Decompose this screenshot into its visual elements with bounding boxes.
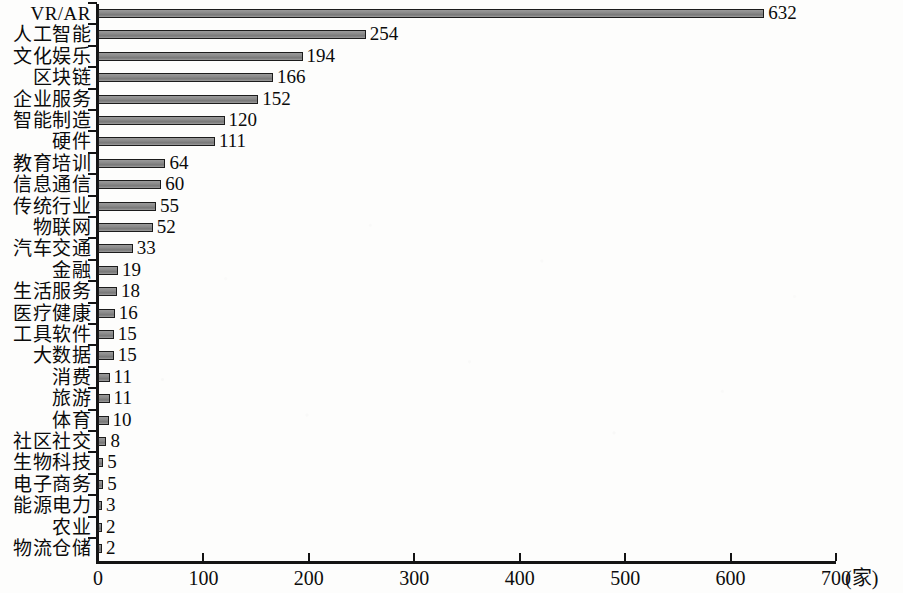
bar — [98, 351, 114, 360]
category-label: 金融 — [52, 260, 91, 281]
bar-value-label: 11 — [114, 366, 132, 387]
bar — [98, 523, 102, 532]
bar-row: 农业2 — [0, 517, 903, 538]
category-label: 体育 — [52, 410, 91, 431]
bar-row: 传统行业55 — [0, 196, 903, 217]
bar — [98, 73, 273, 82]
y-axis-tick — [88, 302, 97, 304]
bar-row: 社区社交8 — [0, 431, 903, 452]
x-axis-unit-label: (家) — [845, 566, 878, 590]
bar-value-label: 33 — [137, 237, 156, 258]
bar — [98, 95, 258, 104]
plot-area: VR/AR632人工智能254文化娱乐194区块链166企业服务152智能制造1… — [0, 0, 903, 593]
y-axis-tick — [88, 430, 97, 432]
bar-row: 物流仓储2 — [0, 538, 903, 559]
bar-value-label: 194 — [307, 45, 336, 66]
x-axis-tick-label: 0 — [93, 566, 103, 590]
bar — [98, 544, 102, 553]
bar-row: 企业服务152 — [0, 89, 903, 110]
category-label: 生物科技 — [13, 452, 91, 473]
y-axis-tick — [88, 216, 97, 218]
bar-row: 消费11 — [0, 367, 903, 388]
bar-value-label: 120 — [229, 109, 258, 130]
bar — [98, 330, 114, 339]
bar-row: 区块链166 — [0, 67, 903, 88]
bar — [98, 116, 225, 125]
y-axis-tick — [88, 537, 97, 539]
bar-row: 文化娱乐194 — [0, 46, 903, 67]
y-axis-tick — [88, 259, 97, 261]
bar-value-label: 5 — [107, 473, 117, 494]
bar-value-label: 2 — [106, 516, 116, 537]
y-axis-tick — [88, 109, 97, 111]
bar-value-label: 3 — [106, 494, 116, 515]
bar-row: 物联网52 — [0, 217, 903, 238]
bar-value-label: 55 — [160, 195, 179, 216]
bar-row: 大数据15 — [0, 345, 903, 366]
category-label: 企业服务 — [13, 89, 91, 110]
x-axis-tick — [413, 553, 415, 561]
y-axis-tick — [88, 387, 97, 389]
category-label: 传统行业 — [13, 196, 91, 217]
y-axis-tick — [88, 130, 97, 132]
bar-value-label: 632 — [768, 2, 797, 23]
bar-row: 硬件111 — [0, 131, 903, 152]
bar-value-label: 254 — [370, 23, 399, 44]
bar — [98, 437, 106, 446]
category-label: 汽车交通 — [13, 238, 91, 259]
category-label: 医疗健康 — [13, 303, 91, 324]
y-axis-tick — [88, 173, 97, 175]
bar-chart: VR/AR632人工智能254文化娱乐194区块链166企业服务152智能制造1… — [0, 0, 903, 593]
category-label: VR/AR — [30, 3, 91, 24]
bar — [98, 202, 156, 211]
category-label: 生活服务 — [13, 281, 91, 302]
y-axis-tick — [88, 66, 97, 68]
bar-row: 智能制造120 — [0, 110, 903, 131]
bar — [98, 223, 153, 232]
bar-value-label: 15 — [118, 344, 137, 365]
bar — [98, 266, 118, 275]
x-axis-tick — [835, 553, 837, 561]
category-label: 人工智能 — [13, 24, 91, 45]
category-label: 物联网 — [33, 217, 92, 238]
bar-row: 信息通信60 — [0, 174, 903, 195]
bar-row: 体育10 — [0, 410, 903, 431]
category-label: 能源电力 — [13, 495, 91, 516]
y-axis-tick — [88, 237, 97, 239]
y-axis-tick — [88, 494, 97, 496]
bar-row: 电子商务5 — [0, 474, 903, 495]
category-label: 旅游 — [52, 388, 91, 409]
bar — [98, 9, 764, 18]
bar-value-label: 5 — [107, 451, 117, 472]
category-label: 信息通信 — [13, 174, 91, 195]
category-label: 大数据 — [33, 345, 92, 366]
bar-value-label: 2 — [106, 537, 116, 558]
x-axis-tick-label: 400 — [505, 566, 535, 590]
x-axis-tick — [624, 553, 626, 561]
x-axis-tick-label: 500 — [610, 566, 640, 590]
bar — [98, 159, 165, 168]
bar-value-label: 15 — [118, 323, 137, 344]
x-axis-tick — [308, 553, 310, 561]
y-axis-tick — [88, 323, 97, 325]
bar-value-label: 16 — [119, 302, 138, 323]
bar-row: 汽车交通33 — [0, 238, 903, 259]
y-axis-tick — [88, 23, 97, 25]
category-label: 教育培训 — [13, 153, 91, 174]
bar — [98, 373, 110, 382]
x-axis-tick — [730, 553, 732, 561]
bar-row: 医疗健康16 — [0, 303, 903, 324]
bar-row: 金融19 — [0, 260, 903, 281]
bar-value-label: 64 — [169, 152, 188, 173]
x-axis-tick-label: 300 — [399, 566, 429, 590]
y-axis-tick — [88, 152, 97, 154]
category-label: 电子商务 — [13, 474, 91, 495]
category-label: 工具软件 — [13, 324, 91, 345]
bar — [98, 480, 103, 489]
bar — [98, 52, 303, 61]
bar-row: 旅游11 — [0, 388, 903, 409]
bar-value-label: 152 — [262, 88, 291, 109]
bar — [98, 287, 117, 296]
bar — [98, 458, 103, 467]
bar-row: VR/AR632 — [0, 3, 903, 24]
